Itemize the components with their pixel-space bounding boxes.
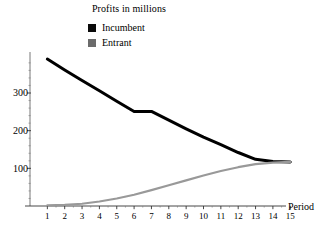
x-tick-label-3: 3	[75, 212, 89, 221]
x-tick-label-4: 4	[92, 212, 106, 221]
x-axis-title: Period	[288, 202, 314, 212]
y-tick-label-300: 300	[2, 88, 28, 98]
x-tick-label-15: 15	[283, 212, 297, 221]
x-tick-label-7: 7	[144, 212, 158, 221]
x-tick-label-11: 11	[214, 212, 228, 221]
x-tick-label-9: 9	[179, 212, 193, 221]
y-tick-label-200: 200	[2, 126, 28, 136]
series-line-entrant	[47, 162, 290, 205]
axis-lines	[25, 52, 290, 209]
x-tick-label-6: 6	[127, 212, 141, 221]
plot-area	[0, 0, 324, 237]
x-tick-label-13: 13	[249, 212, 263, 221]
x-tick-label-12: 12	[231, 212, 245, 221]
x-tick-label-2: 2	[58, 212, 72, 221]
x-tick-label-14: 14	[266, 212, 280, 221]
x-tick-label-5: 5	[110, 212, 124, 221]
x-tick-label-1: 1	[40, 212, 54, 221]
series-line-incumbent	[47, 59, 290, 162]
x-tick-label-10: 10	[197, 212, 211, 221]
chart-container: Profits in millions Incumbent Entrant 30…	[0, 0, 324, 237]
x-tick-label-8: 8	[162, 212, 176, 221]
y-tick-label-100: 100	[2, 164, 28, 174]
